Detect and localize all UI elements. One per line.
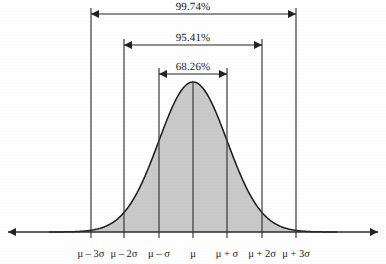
normal-distribution-figure: 99.74%95.41%68.26% μ – 3σμ – 2σμ – σμμ +… (0, 0, 386, 264)
percentage-label-two-sigma: 95.41% (176, 32, 211, 44)
x-tick-label-4: μ + σ (216, 248, 238, 259)
percentage-label-three-sigma: 99.74% (176, 1, 211, 13)
percentage-label-one-sigma: 68.26% (176, 61, 211, 73)
x-tick-label-2: μ – σ (148, 248, 170, 259)
x-tick-label-3: μ (190, 248, 196, 259)
x-tick-label-6: μ + 3σ (282, 248, 310, 259)
x-tick-label-0: μ – 3σ (77, 248, 104, 259)
x-tick-label-5: μ + 2σ (248, 248, 276, 259)
x-tick-label-1: μ – 2σ (110, 248, 137, 259)
